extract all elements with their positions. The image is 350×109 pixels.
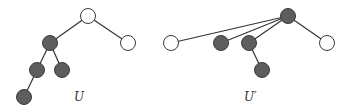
- filled-node: [214, 36, 229, 51]
- empty-node: [164, 36, 179, 51]
- filled-node: [55, 63, 70, 78]
- empty-node: [121, 36, 136, 51]
- filled-node: [281, 9, 296, 24]
- filled-node: [255, 63, 270, 78]
- filled-node: [30, 63, 45, 78]
- tree-label-u-prime: U′: [244, 90, 257, 104]
- tree-u-prime: [164, 9, 335, 78]
- filled-node: [43, 36, 58, 51]
- tree-label-u: U: [74, 90, 85, 104]
- tree-diagram: U U′: [0, 0, 350, 109]
- filled-node: [17, 90, 32, 105]
- empty-node: [81, 9, 96, 24]
- empty-node: [320, 36, 335, 51]
- filled-node: [242, 36, 257, 51]
